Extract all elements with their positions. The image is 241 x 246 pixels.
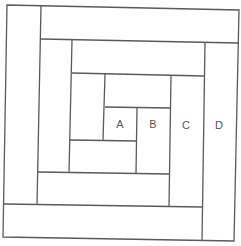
center-bottom-edge <box>70 140 137 141</box>
second-top-strip-edge <box>72 73 204 76</box>
strip-d-left-edge <box>202 43 205 241</box>
second-bottom-strip-edge <box>38 172 170 174</box>
label-c: C <box>182 119 190 131</box>
outer-left-strip-edge <box>37 6 41 205</box>
outer-bottom-strip-edge <box>4 204 202 207</box>
log-cabin-diagram: A B C D <box>0 0 241 246</box>
second-left-strip-edge <box>69 40 72 173</box>
label-a: A <box>116 118 124 130</box>
inner-top-strip-edge <box>105 107 171 108</box>
inner-left-strip-edge <box>103 74 105 140</box>
strip-c-left-edge <box>169 75 171 207</box>
label-b: B <box>149 118 156 130</box>
outer-top-strip-edge <box>41 39 238 43</box>
label-d: D <box>215 119 223 131</box>
